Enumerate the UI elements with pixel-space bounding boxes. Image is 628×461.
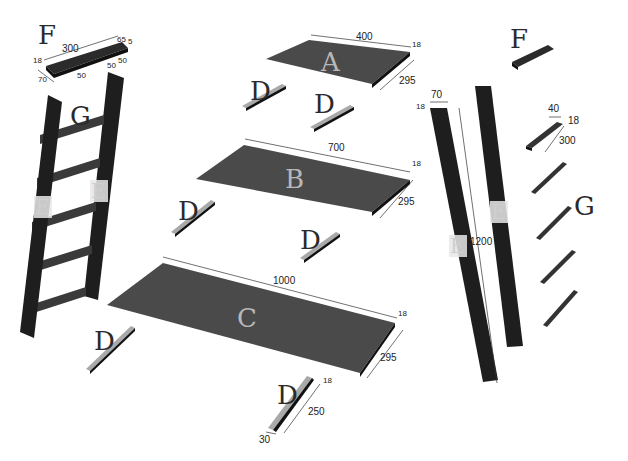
rung-g-2 <box>536 206 572 240</box>
label-e-back-rail: E <box>91 179 106 203</box>
rung-g-4 <box>543 290 578 327</box>
panel-a: A 400 18 295 <box>266 31 421 90</box>
label-e-front-rail: E <box>35 195 50 219</box>
label-d-2: D <box>314 89 335 119</box>
parts-diagram: F 300 18 70 65 5 50 50 50 G E E <box>0 0 628 461</box>
cleat-d-4: D <box>300 225 340 263</box>
label-e-rail-1: E <box>450 234 465 258</box>
dim-a-length: 400 <box>356 31 373 42</box>
dim-c-width: 295 <box>380 352 397 363</box>
dim-d-thickness: 18 <box>323 376 332 385</box>
part-f-detail: F 300 18 70 65 5 50 50 50 <box>33 20 133 84</box>
label-g-ladder: G <box>70 101 91 131</box>
label-d-4: D <box>300 225 321 255</box>
dim-f-notch-a: 65 <box>117 35 126 44</box>
dim-e-thickness: 18 <box>416 102 425 111</box>
dim-f-notch-e: 50 <box>77 71 86 80</box>
cleat-d-1: D <box>242 76 286 111</box>
label-e-rail-2: E <box>491 200 506 224</box>
dim-g-thickness: 18 <box>568 115 580 126</box>
cleat-d-3: D <box>171 196 215 237</box>
rung-g-1 <box>531 162 567 194</box>
dim-g-length: 300 <box>559 135 576 146</box>
rung-g-3 <box>540 250 576 284</box>
dim-e-length: 1200 <box>470 236 493 247</box>
label-d-detail: D <box>277 380 298 410</box>
label-b: B <box>285 164 304 194</box>
dim-f-notch-d: 50 <box>107 61 116 70</box>
cleat-d-2: D <box>310 89 354 132</box>
label-d-1: D <box>250 76 271 106</box>
dim-b-thickness: 18 <box>412 159 421 168</box>
label-d-5: D <box>94 326 115 356</box>
dim-f-length: 300 <box>62 43 79 54</box>
rung-g-detail: 40 18 300 <box>526 103 580 152</box>
dim-f-width: 70 <box>38 75 47 84</box>
dim-b-length: 700 <box>328 142 345 153</box>
label-c: C <box>237 303 257 333</box>
ladder-assembly: G E E <box>20 72 124 338</box>
dim-c-thickness: 18 <box>398 309 407 318</box>
cleat-d-detail: D 18 250 30 <box>259 376 332 445</box>
label-g-right: G <box>574 191 595 221</box>
dim-b-width: 295 <box>398 196 415 207</box>
panel-c: C 1000 18 295 <box>107 257 407 378</box>
dim-g-width: 40 <box>548 103 560 114</box>
panel-b: B 700 18 295 <box>196 139 421 218</box>
dim-f-notch-b: 5 <box>128 37 133 46</box>
dim-a-thickness: 18 <box>412 40 421 49</box>
label-f: F <box>38 20 56 50</box>
cleat-d-5: D <box>86 326 135 374</box>
part-f-piece: F <box>510 24 554 70</box>
dim-d-length: 250 <box>308 406 325 417</box>
dim-f-notch-c: 50 <box>118 56 127 65</box>
dim-a-width: 295 <box>399 75 416 86</box>
label-d-3: D <box>178 196 199 226</box>
dim-e-width: 70 <box>431 89 443 100</box>
dim-f-thickness: 18 <box>33 56 42 65</box>
dim-d-width: 30 <box>259 434 271 445</box>
label-f-right: F <box>510 24 528 54</box>
label-a: A <box>320 47 341 77</box>
dim-c-length: 1000 <box>273 275 296 286</box>
